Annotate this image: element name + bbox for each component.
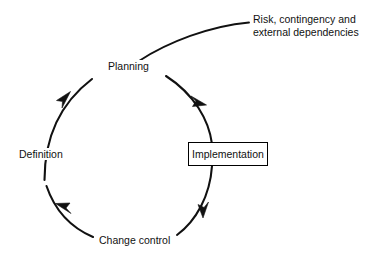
annotation-leader-line: [139, 23, 249, 62]
arrow-definition-to-planning: [45, 79, 93, 180]
annotation-text: Risk, contingency and external dependenc…: [253, 13, 359, 38]
node-label-planning: Planning: [105, 60, 152, 72]
node-label-change-control: Change control: [96, 234, 173, 246]
arrowhead-to-planning: [57, 92, 71, 109]
arc-implementation-to-change-control: [177, 166, 212, 235]
arrow-change-control-to-definition: [47, 186, 94, 237]
arrow-planning-to-implementation: [166, 76, 212, 144]
node-box-implementation: Implementation: [188, 142, 268, 166]
node-label-definition: Definition: [16, 148, 66, 160]
arc-planning-to-implementation: [166, 76, 212, 144]
annotation-line-1: Risk, contingency and: [253, 13, 359, 26]
cycle-arcs-svg: [0, 0, 369, 271]
arc-change-control-to-definition: [47, 186, 94, 237]
node-label-implementation: Implementation: [192, 148, 264, 160]
annotation-line-2: external dependencies: [253, 26, 359, 39]
arrow-implementation-to-change-control: [177, 166, 212, 235]
cycle-diagram: Planning Definition Change control Imple…: [0, 0, 369, 271]
